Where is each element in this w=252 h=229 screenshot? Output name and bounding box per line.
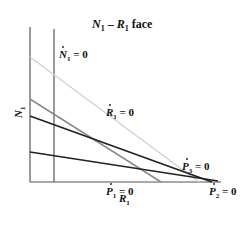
label-n1: N1 = 0	[58, 46, 88, 63]
svg-text:N1 = 0: N1 = 0	[58, 48, 88, 63]
label-p2: P2 = 0	[209, 183, 237, 200]
svg-text:P2 = 0: P2 = 0	[209, 185, 237, 200]
isocline-p2	[30, 116, 212, 182]
label-r1: R1 = 0	[105, 104, 135, 121]
isocline-diagram: N1 – R1 face N1 R1 N1 = 0 R1 = 0 P1 = 0 …	[0, 0, 252, 229]
svg-text:R1 = 0: R1 = 0	[105, 106, 135, 121]
y-axis-label: N1	[12, 106, 27, 119]
diagram-title: N1 – R1 face	[91, 17, 153, 33]
